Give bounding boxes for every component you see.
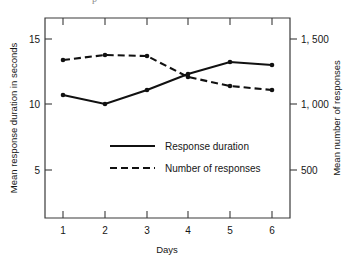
x-axis-ticks bbox=[63, 211, 272, 218]
ytick-label-10: 10 bbox=[29, 99, 41, 110]
y-axis-title: Mean response duration in seconds bbox=[8, 42, 19, 193]
xtick-label-3: 3 bbox=[144, 225, 150, 236]
line-chart: 15 10 5 1, 500 1, 000 500 1 2 3 4 5 6 Da… bbox=[0, 0, 351, 265]
xtick-label-5: 5 bbox=[227, 225, 233, 236]
series-number-of-responses-markers bbox=[61, 53, 275, 93]
xtick-label-4: 4 bbox=[185, 225, 191, 236]
left-axis-ticks bbox=[45, 39, 52, 170]
y2tick-label-500: 500 bbox=[301, 165, 318, 176]
legend-label-number-of-responses: Number of responses bbox=[165, 163, 261, 174]
y2-axis-title: Mean number of responses bbox=[331, 60, 342, 176]
xtick-label-1: 1 bbox=[60, 225, 66, 236]
xtick-label-6: 6 bbox=[269, 225, 275, 236]
y2tick-label-1500: 1, 500 bbox=[301, 34, 329, 45]
xtick-label-2: 2 bbox=[102, 225, 108, 236]
x-axis-title: Days bbox=[156, 244, 178, 255]
ytick-label-15: 15 bbox=[29, 34, 41, 45]
legend-label-response-duration: Response duration bbox=[165, 141, 249, 152]
series-response-duration bbox=[63, 62, 272, 104]
right-axis-ticks bbox=[290, 39, 297, 170]
series-number-of-responses bbox=[63, 55, 272, 90]
chart-legend: Response duration Number of responses bbox=[110, 141, 261, 174]
plot-frame bbox=[45, 18, 290, 218]
y2tick-label-1000: 1, 000 bbox=[301, 99, 329, 110]
figure-container: p bbox=[0, 0, 351, 265]
top-axis-ticks bbox=[63, 18, 272, 25]
ytick-label-5: 5 bbox=[34, 165, 40, 176]
